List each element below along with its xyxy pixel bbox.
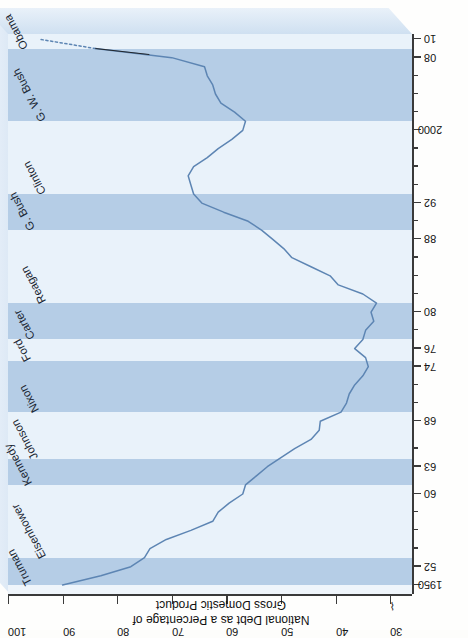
y-axis-title-line-2: Gross Domestic Product [71, 597, 371, 612]
x-tick-minor [412, 93, 418, 94]
y-tick-label-90: 90 [63, 626, 75, 638]
y-tick-label-60: 60 [226, 626, 238, 638]
prediction-line [41, 39, 96, 48]
y-tick-label-70: 70 [172, 626, 184, 638]
x-tick-minor [412, 547, 418, 548]
y-axis-title-line-1: National Debt as a Percentage of [71, 612, 371, 627]
x-tick-minor [412, 165, 418, 166]
x-tick-label-80: 80 [424, 306, 436, 318]
x-tick-74 [412, 365, 421, 366]
x-tick-label-52: 52 [424, 561, 436, 573]
x-tick-minor [412, 111, 418, 112]
y-axis-title: National Debt as a Percentage of Gross D… [71, 597, 371, 627]
x-tick-minor [412, 529, 418, 530]
x-tick-minor [412, 511, 418, 512]
y-tick-label-40: 40 [336, 626, 348, 638]
x-tick-label-08: 08 [424, 52, 436, 64]
debt-line [63, 49, 377, 585]
y-tick-100 [8, 595, 9, 604]
x-tick-52 [412, 565, 421, 566]
axis-break-icon: ⌇ [390, 599, 395, 612]
y-tick-label-100: 100 [8, 626, 26, 638]
x-tick-92 [412, 202, 421, 203]
x-tick-minor [412, 220, 418, 221]
x-tick-minor [412, 256, 418, 257]
x-tick-10 [412, 38, 421, 39]
x-tick-68 [412, 420, 421, 421]
y-tick-label-80: 80 [117, 626, 129, 638]
x-tick-label-60: 60 [424, 488, 436, 500]
x-tick-minor [412, 147, 418, 148]
x-tick-minor [412, 275, 418, 276]
x-tick-minor [412, 329, 418, 330]
y-axis-line [8, 594, 412, 596]
x-tick-88 [412, 238, 421, 239]
x-tick-minor [412, 402, 418, 403]
x-tick-label-2000: 2000 [418, 124, 442, 136]
x-tick-label-88: 88 [424, 233, 436, 245]
x-tick-80 [412, 311, 421, 312]
y-tick-label-50: 50 [281, 626, 293, 638]
x-tick-minor [412, 75, 418, 76]
x-tick-label-63: 63 [424, 461, 436, 473]
y-tick-90 [63, 595, 64, 604]
x-tick-minor [412, 293, 418, 294]
x-tick-minor [412, 447, 418, 448]
x-tick-minor [412, 384, 418, 385]
x-tick-minor [412, 184, 418, 185]
x-tick-76 [412, 347, 421, 348]
x-tick-label-1950: 1950 [418, 579, 442, 591]
x-tick-label-74: 74 [424, 361, 436, 373]
x-tick-08 [412, 56, 421, 57]
x-tick-label-92: 92 [424, 197, 436, 209]
x-tick-label-76: 76 [424, 343, 436, 355]
annotation-leader-line [95, 49, 149, 55]
x-tick-label-68: 68 [424, 415, 436, 427]
x-tick-63 [412, 465, 421, 466]
x-tick-label-10: 10 [424, 33, 436, 45]
y-tick-label-30: 30 [390, 626, 402, 638]
x-tick-60 [412, 493, 421, 494]
